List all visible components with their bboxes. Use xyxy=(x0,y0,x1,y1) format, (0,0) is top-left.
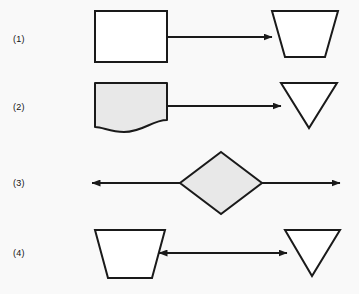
trapezoid-wide-top-shape-2[interactable] xyxy=(95,230,165,278)
triangle-down-shape-2[interactable] xyxy=(285,230,340,276)
row-label-1: (1) xyxy=(13,34,25,44)
row-3-group xyxy=(92,152,340,214)
diamond-shape[interactable] xyxy=(180,152,262,214)
row-label-4: (4) xyxy=(13,248,25,258)
row-4-group xyxy=(95,230,340,278)
trapezoid-wide-top-shape[interactable] xyxy=(272,11,338,57)
triangle-down-shape[interactable] xyxy=(281,83,337,128)
row-label-2: (2) xyxy=(13,102,25,112)
row-1-group xyxy=(95,11,338,62)
flowchart-diagram-canvas xyxy=(0,0,359,294)
rectangle-shape[interactable] xyxy=(95,11,167,62)
document-shape[interactable] xyxy=(95,83,167,132)
row-2-group xyxy=(95,83,337,132)
row-label-3: (3) xyxy=(13,178,25,188)
